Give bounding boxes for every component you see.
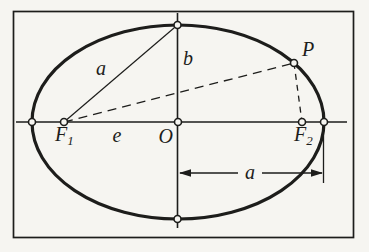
center-marker	[175, 119, 182, 126]
label-focus1: F1	[54, 123, 74, 148]
label-eccentricity-e: e	[113, 124, 122, 146]
top-covertex-marker	[174, 22, 181, 29]
label-semi-minor-b: b	[183, 47, 193, 69]
left-arrowhead-icon	[179, 169, 191, 176]
label-center-o: O	[159, 125, 173, 147]
right-arrowhead-icon	[311, 169, 323, 176]
right-vertex-marker	[321, 119, 328, 126]
focus1-to-covertex-line	[64, 25, 178, 122]
label-focus2-subscript: 2	[306, 133, 313, 148]
label-focus2-base: F	[293, 123, 307, 145]
point-p-marker	[291, 60, 298, 67]
label-focus2: F2	[293, 123, 313, 148]
left-vertex-marker	[29, 119, 36, 126]
ellipse-figure: a b e O P a F1 F2	[0, 0, 369, 252]
point-p-to-focus2-dashed-line	[294, 63, 302, 122]
bottom-covertex-marker	[174, 216, 181, 223]
figure-svg: a b e O P a F1 F2	[0, 0, 369, 252]
label-slant-a: a	[96, 57, 106, 79]
label-dimension-a: a	[245, 161, 255, 183]
label-focus1-subscript: 1	[67, 133, 74, 148]
label-focus1-base: F	[54, 123, 68, 145]
label-point-p: P	[301, 38, 314, 60]
